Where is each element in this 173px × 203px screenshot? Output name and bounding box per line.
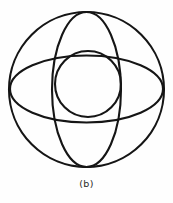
figure-background (0, 0, 173, 203)
figure-panel: (b) (0, 0, 173, 203)
sphere-wireframe-diagram (0, 0, 173, 203)
figure-caption: (b) (0, 178, 173, 190)
